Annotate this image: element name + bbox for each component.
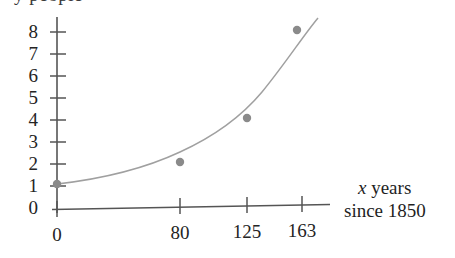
y-tick-label-1: 1	[12, 176, 38, 195]
y-tick-label-3: 3	[12, 132, 38, 151]
data-point	[176, 158, 184, 166]
x-tick-label-163: 163	[279, 221, 325, 240]
figure-container: y people	[0, 0, 455, 258]
y-tick-label-4: 4	[12, 110, 38, 129]
x-caption-rest: years	[366, 177, 411, 198]
data-points	[53, 26, 301, 188]
x-caption-line2: since 1850	[344, 199, 426, 222]
data-point	[243, 114, 251, 122]
x-axis-line	[52, 205, 330, 210]
fitted-curve	[57, 18, 318, 184]
x-axis-ticks	[57, 196, 302, 217]
y-tick-label-7: 7	[12, 44, 38, 63]
x-axis-caption: x years since 1850	[344, 176, 426, 222]
y-tick-label-6: 6	[12, 66, 38, 85]
y-tick-label-5: 5	[12, 88, 38, 107]
y-axis-ticks	[50, 32, 66, 186]
x-tick-label-125: 125	[224, 222, 270, 241]
y-tick-label-8: 8	[12, 22, 38, 41]
y-tick-label-2: 2	[12, 154, 38, 173]
x-tick-label-80: 80	[157, 223, 203, 242]
data-point	[53, 180, 61, 188]
y-tick-label-0: 0	[12, 198, 38, 217]
x-tick-label-0: 0	[34, 225, 80, 244]
data-point	[293, 26, 301, 34]
